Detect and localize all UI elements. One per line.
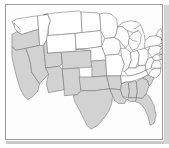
state-DE[interactable] bbox=[160, 54, 162, 59]
state-KS[interactable] bbox=[91, 60, 107, 77]
state-NJ[interactable] bbox=[160, 48, 162, 54]
state-MS[interactable] bbox=[121, 82, 130, 98]
state-TX[interactable] bbox=[73, 89, 112, 129]
state-AZ[interactable] bbox=[45, 66, 64, 93]
state-CO[interactable] bbox=[61, 50, 92, 69]
state-OK[interactable] bbox=[79, 76, 110, 91]
state-FL-panhandle bbox=[127, 98, 136, 102]
frame-bottom-shadow bbox=[6, 141, 169, 144]
map-plot-frame bbox=[5, 4, 163, 140]
state-SD[interactable] bbox=[75, 31, 102, 50]
frame-right-shadow bbox=[164, 5, 169, 144]
state-IA[interactable] bbox=[102, 38, 121, 56]
state-WY[interactable] bbox=[46, 34, 76, 54]
state-NM[interactable] bbox=[62, 68, 81, 96]
state-AL[interactable] bbox=[128, 81, 137, 98]
state-ND[interactable] bbox=[81, 12, 101, 33]
state-MO[interactable] bbox=[106, 54, 125, 76]
state-FL[interactable] bbox=[135, 94, 156, 126]
map-figure bbox=[0, 0, 169, 148]
state-MN[interactable] bbox=[100, 13, 118, 39]
us-states-map[interactable] bbox=[6, 5, 162, 139]
